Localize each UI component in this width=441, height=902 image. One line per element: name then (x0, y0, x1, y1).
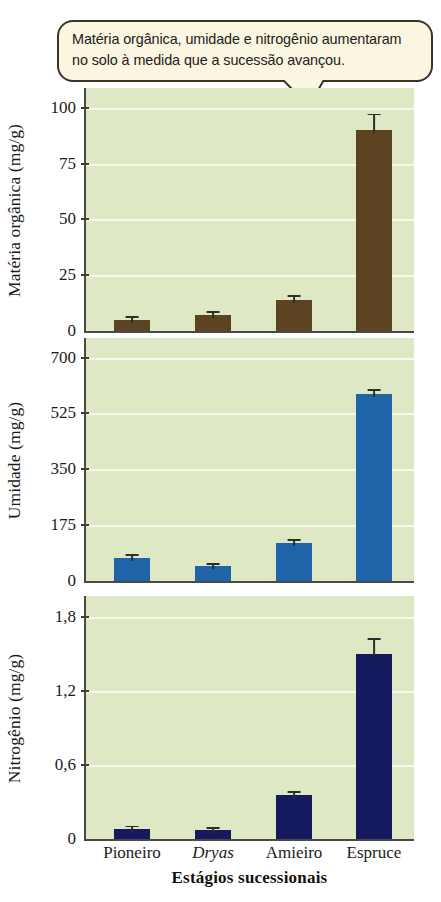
bar-pioneiro (114, 829, 150, 839)
chart-1: Umidade (mg/g)0175350525700 (0, 338, 441, 583)
x-tick-label-pioneiro: Pioneiro (103, 843, 161, 863)
error-bar-cap (125, 826, 138, 828)
error-bar (293, 539, 295, 546)
y-tick-label: 175 (51, 515, 77, 535)
bar-rect (356, 394, 392, 581)
error-bar-cap (287, 539, 300, 541)
y-tick-label: 100 (51, 98, 77, 118)
error-bar (373, 114, 375, 134)
y-tick-label: 0 (68, 829, 77, 849)
y-axis-spine (84, 88, 86, 333)
error-bar-cap (367, 114, 380, 116)
y-axis-spine (84, 596, 86, 841)
y-tick-label: 1,2 (55, 681, 76, 701)
y-tick-label: 350 (51, 459, 77, 479)
error-bar (131, 826, 133, 832)
gridline (85, 617, 414, 619)
plot-area (85, 338, 414, 583)
y-tick-label: 525 (51, 403, 77, 423)
callout-text: Matéria orgânica, umidade e nitrogênio a… (57, 20, 433, 82)
y-tick-mark (81, 412, 89, 414)
y-tick-label: 0 (68, 571, 77, 591)
y-axis-spine (84, 338, 86, 583)
x-tick-label-dryas: Dryas (192, 843, 234, 863)
y-tick-mark (81, 524, 89, 526)
y-tick-mark (81, 163, 89, 165)
error-bar-cap (287, 295, 300, 297)
plot-area (85, 88, 414, 333)
error-bar-cap (287, 791, 300, 793)
y-axis-label-text: Umidade (mg/g) (5, 402, 26, 520)
error-bar-cap (125, 316, 138, 318)
error-bar-cap (206, 311, 219, 313)
y-tick-label: 0,6 (55, 755, 76, 775)
bar-rect (276, 300, 312, 331)
y-tick-mark (81, 274, 89, 276)
x-tick-label-amieiro: Amieiro (266, 843, 323, 863)
y-axis-label: Matéria orgânica (mg/g) (0, 88, 30, 333)
error-bar-cap (206, 563, 219, 565)
bar-amieiro (276, 300, 312, 331)
error-bar (373, 389, 375, 397)
error-bar (373, 638, 375, 657)
error-bar-cap (367, 389, 380, 391)
y-tick-label: 75 (59, 154, 76, 174)
y-tick-mark (81, 690, 89, 692)
y-tick-label: 1,8 (55, 607, 76, 627)
bar-pioneiro (114, 320, 150, 331)
bar-dryas (195, 566, 231, 581)
bar-rect (276, 795, 312, 839)
y-axis-label-text: Matéria orgânica (mg/g) (5, 124, 26, 297)
bar-espruce (356, 130, 392, 331)
error-bar-cap (206, 827, 219, 829)
bar-rect (114, 558, 150, 581)
error-bar (131, 554, 133, 561)
error-bar-cap (125, 554, 138, 556)
bar-espruce (356, 394, 392, 581)
plot-area (85, 596, 414, 841)
error-bar-cap (367, 638, 380, 640)
y-tick-label: 700 (51, 348, 77, 368)
y-tick-mark (81, 107, 89, 109)
x-axis: PioneiroDryasAmieiroEspruce Estágios suc… (85, 843, 414, 893)
chart-0: Matéria orgânica (mg/g)0255075100 (0, 88, 441, 333)
y-axis-label-text: Nitrogênio (mg/g) (5, 654, 26, 784)
gridline (85, 358, 414, 360)
chart-2: Nitrogênio (mg/g)00,61,21,8 (0, 596, 441, 841)
bar-espruce (356, 654, 392, 839)
y-axis-label: Nitrogênio (mg/g) (0, 596, 30, 841)
bar-pioneiro (114, 558, 150, 581)
gridline (85, 108, 414, 110)
x-axis-title: Estágios sucessionais (85, 868, 414, 888)
callout-annotation: Matéria orgânica, umidade e nitrogênio a… (57, 20, 433, 82)
bar-dryas (195, 830, 231, 839)
y-tick-mark (81, 468, 89, 470)
y-tick-mark (81, 357, 89, 359)
y-ticks: 0255075100 (28, 88, 80, 333)
y-ticks: 00,61,21,8 (28, 596, 80, 841)
error-bar (212, 563, 214, 569)
error-bar (131, 316, 133, 323)
error-bar (212, 311, 214, 318)
y-tick-mark (81, 764, 89, 766)
y-tick-mark (81, 616, 89, 618)
error-bar (293, 295, 295, 302)
x-tick-label-espruce: Espruce (347, 843, 402, 863)
y-tick-mark (81, 218, 89, 220)
bar-rect (356, 654, 392, 839)
y-tick-label: 50 (59, 209, 76, 229)
error-bar (293, 791, 295, 797)
error-bar (212, 827, 214, 833)
y-ticks: 0175350525700 (28, 338, 80, 583)
bar-amieiro (276, 543, 312, 581)
y-tick-label: 25 (59, 265, 76, 285)
bar-rect (276, 543, 312, 581)
bar-amieiro (276, 795, 312, 839)
y-axis-label: Umidade (mg/g) (0, 338, 30, 583)
bar-rect (356, 130, 392, 331)
bar-dryas (195, 315, 231, 331)
